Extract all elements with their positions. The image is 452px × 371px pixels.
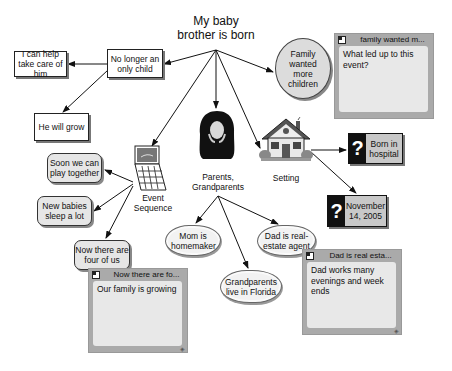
note-header[interactable]: Dad is real esta... [303, 250, 401, 261]
node-label: I can help take care of him [15, 49, 66, 79]
node-label: Born in hospital [366, 134, 402, 163]
note-window-icon[interactable] [338, 36, 346, 44]
note-window-icon[interactable] [306, 252, 314, 260]
parents-label: Parents, Grandparents [190, 172, 246, 192]
node-babies-sleep[interactable]: New babies sleep a lot [37, 196, 92, 226]
node-wanted-more[interactable]: Family wanted more children [275, 38, 331, 99]
node-only-child[interactable]: No longer an only child [107, 49, 163, 78]
note-header[interactable]: Now there are fo... [89, 269, 187, 280]
note-header[interactable]: family wanted m... [335, 34, 433, 45]
person-icon[interactable] [197, 110, 237, 160]
question-icon: ? [328, 196, 345, 226]
setting-label: Setting [262, 173, 310, 183]
calendar-icon[interactable] [133, 145, 167, 191]
node-label: Soon we can play together [48, 158, 101, 178]
note-family-wanted[interactable]: family wanted m... What led up to this e… [334, 33, 434, 119]
note-title: Now there are fo... [106, 270, 187, 279]
node-label: Grandparents live in Florida [223, 277, 279, 297]
note-body[interactable]: Dad works many evenings and week ends [307, 262, 396, 328]
note-now-four[interactable]: Now there are fo... Our family is growin… [88, 268, 188, 353]
note-body[interactable]: Our family is growing [93, 281, 182, 346]
node-label: No longer an only child [108, 54, 162, 74]
resize-grip-icon[interactable]: ◈ [394, 327, 399, 334]
node-born-hospital[interactable]: ? Born in hospital [348, 133, 403, 164]
node-label: Family wanted more children [283, 49, 323, 89]
node-label: November 14, 2005 [345, 196, 386, 226]
node-label: He will grow [39, 122, 85, 132]
question-icon: ? [349, 134, 366, 163]
root-node[interactable]: My baby brother is born [176, 7, 256, 49]
resize-grip-icon[interactable]: ◈ [180, 345, 185, 352]
node-label: Dad is real-estate agent [261, 231, 313, 251]
note-title: Dad is real esta... [320, 251, 401, 260]
node-four-of-us[interactable]: Now there are four of us [74, 240, 130, 270]
node-play-together[interactable]: Soon we can play together [47, 153, 102, 183]
node-label: New babies sleep a lot [38, 201, 91, 221]
node-help-care[interactable]: I can help take care of him [14, 51, 67, 77]
node-date[interactable]: ? November 14, 2005 [327, 195, 387, 227]
node-mom[interactable]: Mom is homemaker [165, 225, 221, 256]
node-label: Mom is homemaker [171, 231, 215, 251]
note-window-icon[interactable] [92, 271, 100, 279]
node-will-grow[interactable]: He will grow [34, 113, 89, 141]
concept-map-canvas: My baby brother is born I can help take … [0, 0, 452, 371]
root-label: My baby brother is born [176, 14, 256, 42]
node-grandparents[interactable]: Grandparents live in Florida [220, 270, 282, 303]
house-icon[interactable] [259, 117, 313, 161]
node-label: Now there are four of us [75, 245, 129, 265]
note-body[interactable]: What led up to this event? [339, 46, 428, 112]
note-dad-real-estate[interactable]: Dad is real esta... Dad works many eveni… [302, 249, 402, 335]
note-title: family wanted m... [352, 35, 433, 44]
event-sequence-label: Event Sequence [128, 193, 178, 213]
